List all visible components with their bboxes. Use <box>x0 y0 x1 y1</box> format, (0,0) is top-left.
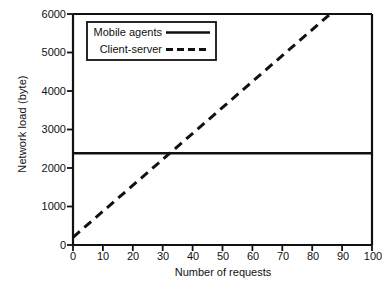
x-axis-title: Number of requests <box>73 266 373 278</box>
x-tick-label: 30 <box>148 250 178 262</box>
y-tick-label: 2000 <box>24 162 66 174</box>
x-tick-label: 70 <box>268 250 298 262</box>
x-tick-label: 60 <box>238 250 268 262</box>
y-tick-label: 6000 <box>24 8 66 20</box>
legend-label-mobile-agents: Mobile agents <box>70 26 162 38</box>
y-tick-label: 1000 <box>24 200 66 212</box>
y-tick-label: 3000 <box>24 123 66 135</box>
x-tick-label: 10 <box>88 250 118 262</box>
x-tick-label: 50 <box>208 250 238 262</box>
x-tick-label: 20 <box>118 250 148 262</box>
x-tick-label: 80 <box>298 250 328 262</box>
x-tick-label: 0 <box>58 250 88 262</box>
x-tick-label: 40 <box>178 250 208 262</box>
x-tick-label: 100 <box>358 250 388 262</box>
y-tick-label: 4000 <box>24 85 66 97</box>
y-tick-label: 5000 <box>24 46 66 58</box>
legend-label-client-server: Client-server <box>70 43 162 55</box>
chart-figure: Network load (byte) Number of requests 6… <box>0 0 392 300</box>
x-tick-label: 90 <box>328 250 358 262</box>
